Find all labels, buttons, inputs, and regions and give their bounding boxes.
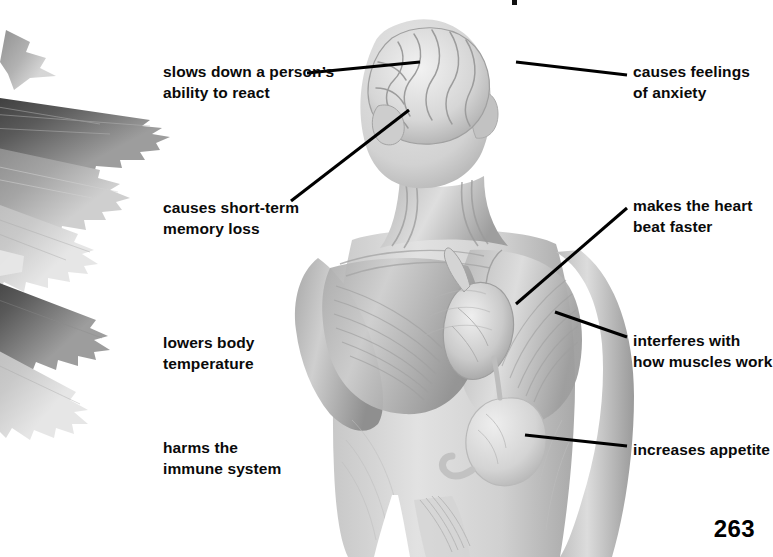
callout-slows-reaction: slows down a person’s ability to react	[163, 62, 334, 103]
figure-page: slows down a person’s ability to react c…	[0, 0, 773, 557]
callout-heart-beats-faster: makes the heart beat faster	[633, 196, 753, 237]
callout-interferes-with-muscles: interferes with how muscles work	[633, 331, 772, 372]
callout-lowers-body-temperature: lowers body temperature	[163, 333, 255, 374]
callout-increases-appetite: increases appetite	[633, 440, 770, 461]
callout-short-term-memory-loss: causes short-term memory loss	[163, 198, 299, 239]
callout-harms-immune-system: harms the immune system	[163, 438, 281, 479]
leader-short-term-memory	[291, 110, 409, 201]
page-number: 263	[714, 515, 755, 543]
leader-heart-beats-faster	[516, 208, 627, 304]
leader-causes-anxiety	[516, 62, 627, 75]
callout-causes-anxiety: causes feelings of anxiety	[633, 62, 750, 103]
leader-interferes-muscles	[555, 312, 627, 337]
leader-increases-appetite	[525, 435, 627, 446]
